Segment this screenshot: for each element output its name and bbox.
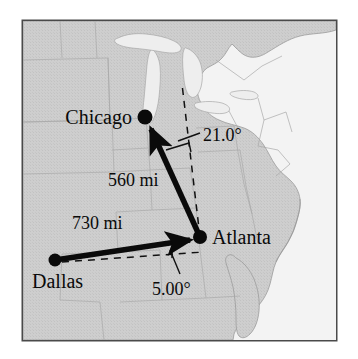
angle-label-5: 5.00° — [152, 279, 191, 299]
angle-label-21: 21.0° — [203, 125, 242, 145]
magnitude-label-560: 560 mi — [108, 170, 159, 190]
magnitude-label-730: 730 mi — [72, 213, 123, 233]
city-label-atlanta: Atlanta — [212, 226, 271, 248]
city-dot-atlanta — [193, 230, 207, 244]
diagram-canvas: Chicago Atlanta Dallas 560 mi 730 mi 21.… — [0, 0, 358, 359]
vector-diagram-figure: Chicago Atlanta Dallas 560 mi 730 mi 21.… — [0, 0, 358, 359]
city-label-chicago: Chicago — [65, 106, 132, 129]
city-label-dallas: Dallas — [32, 270, 83, 292]
city-dot-dallas — [49, 254, 62, 267]
map-content: Chicago Atlanta Dallas 560 mi 730 mi 21.… — [23, 21, 336, 340]
city-dot-chicago — [138, 110, 153, 125]
